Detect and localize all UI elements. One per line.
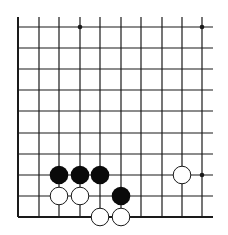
star-point-icon [200, 25, 205, 30]
star-point-icon [200, 173, 205, 178]
white-stone [112, 208, 130, 226]
black-stone [71, 166, 90, 185]
white-stone [50, 187, 68, 205]
black-stone [112, 187, 131, 206]
white-stone [91, 208, 109, 226]
grid-lines [18, 17, 213, 217]
white-stone [173, 166, 191, 184]
black-stone [50, 166, 69, 185]
white-stone [71, 187, 89, 205]
go-board [0, 0, 228, 235]
star-point-icon [78, 25, 83, 30]
black-stone [91, 166, 110, 185]
